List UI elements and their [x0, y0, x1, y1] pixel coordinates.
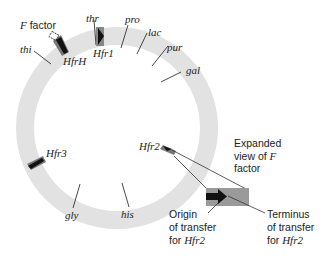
expanded-f-factor [206, 188, 249, 206]
gene-label-pur: pur [166, 41, 183, 53]
svg-text:Origin: Origin [169, 208, 197, 220]
hfr-label-hfr2: Hfr2 [138, 140, 160, 152]
hfr-label-hfr1: Hfr1 [92, 47, 114, 59]
svg-text:Expanded: Expanded [234, 137, 281, 149]
f-factor-label: F factor [19, 19, 56, 31]
origin-label: Origin of transfer for Hfr2 [169, 208, 217, 246]
chromosome-ring [25, 36, 209, 220]
svg-text:of transfer: of transfer [267, 221, 315, 233]
gene-label-thr: thr [86, 12, 100, 24]
svg-text:view of F: view of F [234, 150, 277, 162]
gene-label-pro: pro [124, 13, 140, 25]
svg-text:factor: factor [234, 162, 261, 174]
svg-text:for Hfr2: for Hfr2 [267, 234, 303, 246]
hfr-label-hfr3: Hfr3 [45, 147, 67, 159]
svg-text:Terminus: Terminus [267, 208, 310, 220]
hfr1-insert [96, 27, 104, 46]
gene-label-thi: thi [20, 43, 32, 55]
tick-his [122, 183, 129, 207]
terminus-label: Terminus of transfer for Hfr2 [267, 208, 315, 246]
svg-text:for Hfr2: for Hfr2 [169, 234, 205, 246]
gene-label-gal: gal [186, 64, 200, 76]
chromosome-diagram: thr pro lac pur gal his gly thi HfrH Hfr… [0, 0, 329, 261]
gene-label-his: his [121, 208, 134, 220]
hfr2-insert [160, 145, 176, 155]
hfr-label-hfrH: HfrH [62, 55, 87, 67]
tick-gal [161, 72, 181, 82]
gene-label-lac: lac [148, 26, 162, 38]
expanded-view-label: Expanded view of F factor [234, 137, 281, 174]
gene-label-gly: gly [65, 209, 79, 221]
svg-text:of transfer: of transfer [169, 221, 217, 233]
